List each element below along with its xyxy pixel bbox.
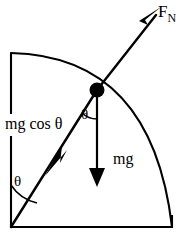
curved-surface-arc	[11, 53, 172, 227]
angle-label-at-base: θ	[14, 174, 21, 189]
normal-force-label: FN	[158, 3, 176, 20]
normal-force-subscript: N	[167, 11, 176, 25]
mg-cos-theta-arrowhead	[45, 146, 67, 176]
weight-label: mg	[113, 151, 133, 167]
contact-point-node	[90, 83, 105, 98]
normal-force-vector-line	[97, 15, 156, 90]
weight-component-label: mg cos θ	[5, 116, 62, 132]
angle-label-at-contact-point: θ	[81, 107, 88, 122]
weight-arrowhead	[89, 168, 105, 187]
physics-free-body-diagram: FN mg cos θ mg θ θ	[0, 0, 182, 239]
